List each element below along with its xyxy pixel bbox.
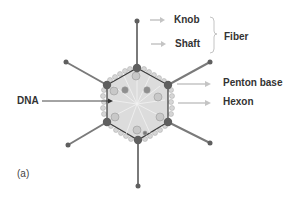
hexon-arrow	[178, 100, 211, 106]
dna-label: DNA	[17, 95, 39, 107]
fiber-brace	[210, 17, 217, 53]
knob-label: Knob	[174, 14, 200, 26]
penton-base-label: Penton base	[223, 77, 282, 89]
panel-label: (a)	[17, 168, 29, 180]
shaft-label: Shaft	[175, 38, 200, 50]
shaft-arrow	[151, 41, 166, 47]
penton-base-arrow	[177, 81, 211, 87]
fiber-label: Fiber	[224, 31, 248, 43]
hexon-label: Hexon	[223, 96, 254, 108]
knob-arrow	[150, 17, 165, 23]
